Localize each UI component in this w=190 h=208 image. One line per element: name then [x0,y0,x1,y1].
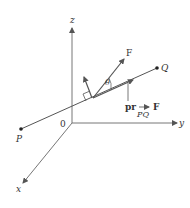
z-axis-label: z [69,15,75,25]
line-pq [21,68,157,129]
point-p [19,127,23,131]
angle-label: θ [105,78,110,87]
point-p-label: P [15,134,23,144]
origin-label: 0 [60,119,66,129]
perpendicular-vector [84,77,92,98]
projection-vector-label: F [153,102,160,112]
force-label: F [126,48,132,58]
y-axis-label: y [178,118,185,128]
point-q [155,66,159,70]
x-axis [23,123,72,183]
projection-prefix: pr [125,102,136,112]
point-q-label: Q [161,63,169,73]
projection-subscript: PQ [136,110,149,119]
x-axis-label: x [16,184,21,194]
diagram-canvas: z 0 y x P Q F θ pr F PQ [0,0,190,208]
projection-vector [93,80,133,98]
